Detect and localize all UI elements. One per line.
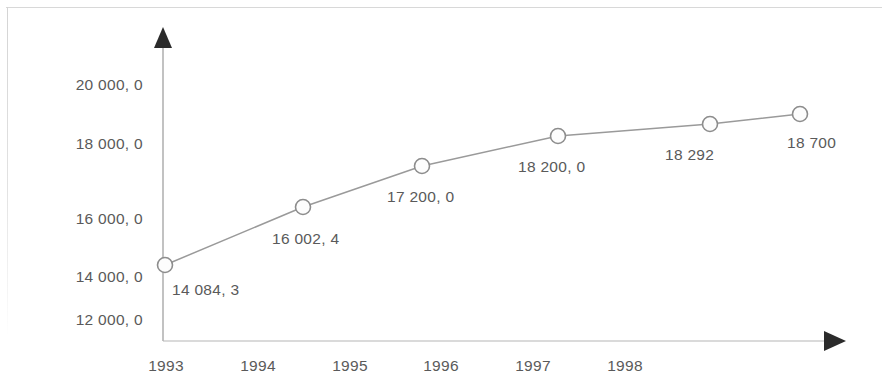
data-point-marker [296,200,311,215]
data-point-label-1: 14 084, 3 [172,281,239,299]
data-point-label-6: 18 700 [787,134,836,152]
y-tick-label-12000: 12 000, 0 [53,311,143,329]
x-tick-label-1993: 1993 [148,357,184,375]
data-point-marker [415,159,430,174]
y-axis-arrow-icon [154,27,172,48]
data-point-marker [703,117,718,132]
data-series-line [165,114,800,265]
data-point-marker [551,129,566,144]
data-point-label-2: 16 002, 4 [272,230,339,248]
data-point-label-3: 17 200, 0 [387,188,454,206]
x-tick-label-1994: 1994 [240,357,276,375]
y-tick-label-16000: 16 000, 0 [53,210,143,228]
data-point-label-4: 18 200, 0 [518,158,585,176]
x-tick-label-1995: 1995 [332,357,368,375]
chart-figure: 20 000, 0 18 000, 0 16 000, 0 14 000, 0 … [0,0,886,392]
x-axis-arrow-icon [824,331,846,351]
y-tick-label-14000: 14 000, 0 [53,268,143,286]
x-tick-label-1998: 1998 [607,357,643,375]
data-point-marker [793,107,808,122]
y-tick-label-18000: 18 000, 0 [53,135,143,153]
x-tick-label-1996: 1996 [423,357,459,375]
x-tick-label-1997: 1997 [515,357,551,375]
data-point-label-5: 18 292 [665,146,714,164]
data-point-marker [158,258,173,273]
y-tick-label-20000: 20 000, 0 [53,76,143,94]
